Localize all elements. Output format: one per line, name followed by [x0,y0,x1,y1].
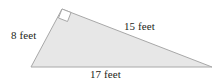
right-triangle-figure: 8 feet 15 feet 17 feet [0,0,218,83]
label-base: 17 feet [90,69,121,80]
label-vertical-leg: 8 feet [11,30,36,41]
label-hypotenuse: 15 feet [124,21,155,32]
